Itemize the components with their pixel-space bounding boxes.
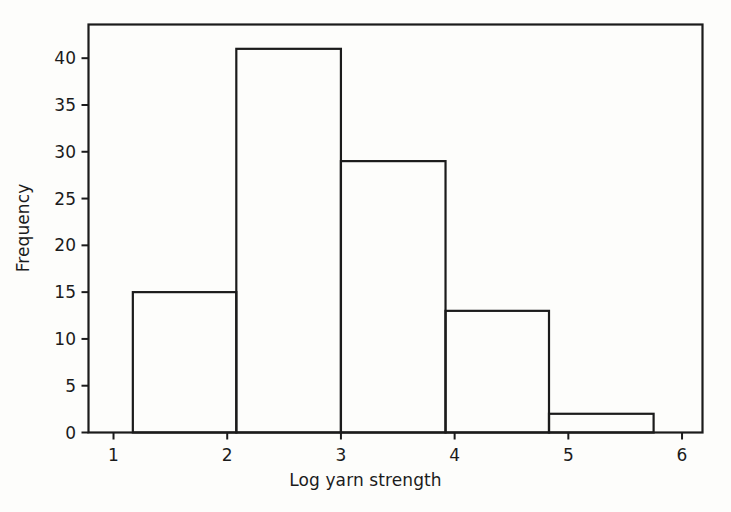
histogram-plot <box>0 0 731 512</box>
x-axis-title: Log yarn strength <box>0 470 731 490</box>
histogram-bar <box>446 311 549 433</box>
histogram-bar <box>549 414 654 433</box>
y-axis-title: Frequency <box>13 184 33 273</box>
histogram-bars <box>133 49 654 433</box>
x-tick-label: 6 <box>677 445 688 465</box>
x-tick-label: 5 <box>563 445 574 465</box>
tick-marks <box>82 58 683 439</box>
plot-frame <box>89 25 703 433</box>
plot-border <box>89 25 703 433</box>
x-tick-label: 3 <box>336 445 347 465</box>
histogram-bar <box>341 161 446 432</box>
y-axis-title-wrap: Frequency <box>0 0 46 456</box>
figure-canvas: 0510152025303540 123456 Frequency Log ya… <box>0 0 731 512</box>
histogram-bar <box>236 49 341 433</box>
x-tick-label: 2 <box>222 445 233 465</box>
x-tick-label: 1 <box>108 445 119 465</box>
x-tick-label: 4 <box>449 445 460 465</box>
histogram-bar <box>133 292 236 432</box>
